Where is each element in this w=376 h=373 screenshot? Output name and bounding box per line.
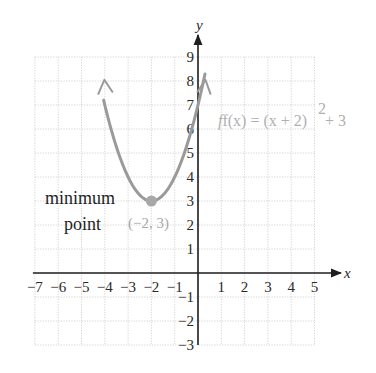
y-tick-label: 2 — [187, 217, 195, 233]
x-axis-label: x — [343, 265, 351, 281]
x-tick-labels: −7−6−5−4−3−2−112345 — [27, 279, 318, 295]
y-tick-label: 9 — [187, 49, 195, 65]
x-tick-label: 1 — [218, 279, 226, 295]
x-tick-label: −5 — [74, 279, 90, 295]
x-tick-label: −6 — [50, 279, 66, 295]
minimum-point-label: (−2, 3) — [128, 215, 169, 232]
x-tick-label: −3 — [120, 279, 136, 295]
y-tick-label: 8 — [187, 73, 195, 89]
x-tick-label: 3 — [264, 279, 272, 295]
equation-text: f(x) = (x + 2) — [222, 112, 307, 130]
minimum-point-marker — [146, 196, 157, 207]
y-tick-label: 3 — [187, 193, 195, 209]
function-equation-label: ff(x) = (x + 2) — [218, 112, 307, 130]
y-tick-label: 4 — [187, 169, 195, 185]
y-tick-label: −1 — [178, 289, 194, 305]
curve-arrow-left-icon — [98, 80, 112, 94]
y-tick-label: −3 — [178, 337, 194, 353]
y-tick-label: 7 — [187, 97, 195, 113]
x-tick-label: −4 — [97, 279, 113, 295]
x-tick-label: 2 — [241, 279, 249, 295]
y-axis-label: y — [194, 17, 203, 33]
annotation-point: point — [64, 214, 101, 234]
annotation-minimum: minimum — [45, 188, 115, 208]
x-tick-label: 4 — [287, 279, 295, 295]
y-tick-label: 1 — [187, 241, 195, 257]
x-tick-label: −2 — [143, 279, 159, 295]
equation-tail: + 3 — [325, 112, 346, 129]
y-tick-label: −2 — [178, 313, 194, 329]
curve-arrow-right-icon — [197, 80, 210, 94]
x-tick-label: 5 — [311, 279, 319, 295]
x-tick-label: −7 — [27, 279, 43, 295]
parabola-chart: x y −7−6−5−4−3−2−112345 987654321−1−2−3 … — [0, 0, 376, 373]
